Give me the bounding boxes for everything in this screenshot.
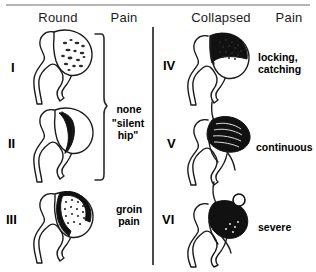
stage-numeral-6: VI (162, 212, 174, 227)
pain-label-locking-catching: locking, catching (258, 52, 314, 75)
column-divider-line (152, 27, 154, 265)
femoral-head-stage-3-icon (24, 180, 102, 264)
header-collapsed: Collapsed (178, 10, 264, 25)
femoral-head-stage-4-icon (180, 26, 260, 106)
header-pain-left: Pain (96, 10, 152, 25)
stage-5-collapsed-head (207, 117, 250, 153)
top-divider-rule (6, 4, 310, 6)
stage-numeral-4: IV (163, 58, 175, 73)
femoral-head-stage-6-icon (178, 180, 262, 268)
pain-label-severe: severe (258, 222, 314, 234)
header-pain-right: Pain (266, 10, 312, 25)
femoral-head-stage-1-icon (24, 26, 102, 106)
osteonecrosis-staging-figure: Round Pain Collapsed Pain I II III IV V … (0, 0, 316, 272)
femoral-head-stage-5-icon (178, 100, 262, 186)
pain-label-continuous: continuous (256, 142, 316, 154)
stage-numeral-3: III (6, 212, 17, 227)
stage-numeral-2: II (8, 136, 15, 151)
pain-label-groin-pain: groin pain (104, 204, 154, 227)
stage-numeral-5: V (167, 136, 176, 151)
stage-6-loose-body-icon (233, 194, 245, 206)
pain-label-silent-hip: "silent hip" (101, 118, 155, 141)
stage-numeral-1: I (11, 60, 15, 75)
header-round: Round (22, 10, 94, 25)
pain-label-none: none (104, 104, 154, 116)
femoral-head-stage-2-icon (24, 102, 102, 184)
